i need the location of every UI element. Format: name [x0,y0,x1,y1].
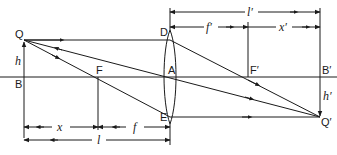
label-A: A [168,64,176,76]
label-B: B [15,78,22,90]
label-focus-to-image: x′ [278,20,287,34]
label-object-to-focus: x [56,120,63,134]
label-image-focal-length: f′ [206,20,212,34]
label-h: h [15,54,21,68]
chief-ray [24,40,320,117]
label-E: E [160,111,167,123]
label-F-prime: F′ [250,64,259,76]
label-B-prime: B′ [322,64,331,76]
label-F: F [96,64,103,76]
label-D: D [160,26,168,38]
label-h-prime: h′ [323,89,332,103]
label-Q: Q [15,28,24,40]
label-image-distance: l′ [247,5,253,19]
label-object-distance: l [97,133,101,147]
lens-ray-diagram: l′ f′ x′ x f l Q h B F D A E F′ B′ h′ Q′ [0,0,337,155]
label-Q-prime: Q′ [321,116,332,128]
label-focal-length: f [133,120,138,134]
